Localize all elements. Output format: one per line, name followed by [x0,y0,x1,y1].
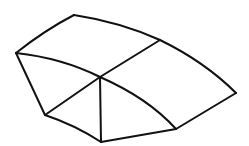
diagram-background [0,0,249,146]
wireframe-surface-diagram [0,0,249,146]
center-bottom-edge [100,77,101,142]
